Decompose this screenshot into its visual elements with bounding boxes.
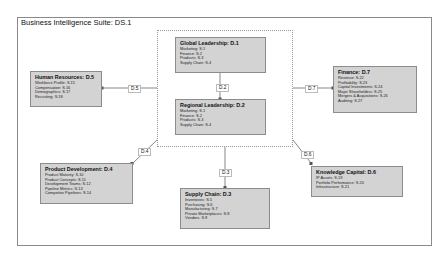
node-human-resources[interactable]: Human Resources: D.5 Workforce Profile: … xyxy=(30,71,102,107)
node-regional-leadership[interactable]: Regional Leadership: D.2 Marketing: S.1 … xyxy=(175,99,266,135)
node-item: Auditing: S.27 xyxy=(338,99,412,104)
node-finance[interactable]: Finance: D.7 Revenue: S.22 Profitability… xyxy=(333,66,417,113)
edge-label-d7: D.7 xyxy=(305,85,318,93)
edge-label-d5: D.5 xyxy=(128,85,141,93)
edge-label-d6: D.6 xyxy=(301,151,314,159)
edge-label-d2: D.2 xyxy=(216,84,229,92)
node-knowledge-capital[interactable]: Knowledge Capital: D.6 IP Assets: S.19 P… xyxy=(311,166,403,197)
node-global-leadership[interactable]: Global Leadership: D.1 Marketing: S.1 Fi… xyxy=(175,37,266,73)
node-item: Vendors: S.9 xyxy=(185,216,265,221)
edge-label-d4: D.4 xyxy=(138,148,151,156)
node-item: Competitor Pipelines: S.14 xyxy=(45,191,128,196)
node-item: Infrastructure: S.21 xyxy=(316,185,398,190)
node-item: Supply Chain: S.4 xyxy=(180,123,261,128)
node-item: Recruiting: S.18 xyxy=(35,95,97,100)
node-supply-chain[interactable]: Supply Chain: D.3 Inventories: S.5 Purch… xyxy=(180,188,270,229)
edge-label-d3: D.3 xyxy=(219,169,232,177)
node-item: Supply Chain: S.4 xyxy=(180,61,261,66)
node-product-development[interactable]: Product Development: D.4 Product Maturit… xyxy=(40,163,133,204)
